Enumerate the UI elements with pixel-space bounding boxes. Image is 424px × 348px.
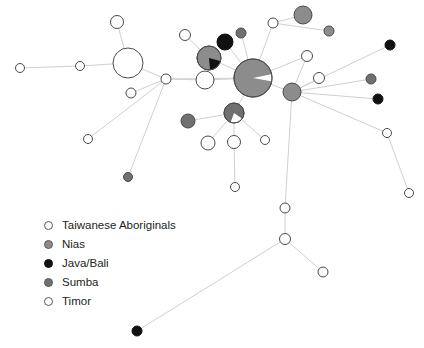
network-edge: [131, 79, 166, 93]
network-node[interactable]: [132, 326, 142, 336]
legend-item-label: Timor: [62, 292, 91, 311]
network-node[interactable]: [383, 129, 392, 138]
network-edge: [285, 92, 292, 208]
node-circle: [280, 234, 291, 245]
network-node[interactable]: [113, 48, 143, 78]
node-circle: [84, 135, 93, 144]
network-node[interactable]: [161, 74, 171, 84]
network-node[interactable]: [224, 103, 244, 123]
node-circle: [261, 136, 270, 145]
network-node[interactable]: [318, 267, 328, 277]
network-edge: [387, 133, 409, 193]
node-circle: [217, 34, 233, 50]
node-circle: [228, 136, 241, 149]
node-circle: [201, 136, 215, 150]
node-circle: [283, 83, 301, 101]
network-node[interactable]: [373, 94, 383, 104]
node-circle: [268, 18, 278, 28]
node-circle: [314, 73, 325, 84]
legend-item-taiwanese-aboriginals: Taiwanese Aboriginals: [44, 216, 244, 235]
network-node[interactable]: [236, 28, 246, 38]
node-circle: [111, 16, 124, 29]
node-circle: [126, 88, 136, 98]
node-circle: [132, 326, 142, 336]
legend-swatch-icon: [44, 240, 53, 249]
network-node[interactable]: [366, 74, 376, 84]
node-circle: [383, 129, 392, 138]
node-circle: [294, 6, 312, 24]
node-circle: [196, 71, 214, 89]
node-circle: [113, 48, 143, 78]
haplotype-network-figure: Taiwanese Aboriginals Nias Java/Bali Sum…: [0, 0, 424, 348]
node-circle: [236, 28, 246, 38]
legend-swatch-icon: [44, 221, 53, 230]
node-circle: [324, 26, 334, 36]
node-circle: [231, 183, 240, 192]
network-node[interactable]: [280, 234, 291, 245]
network-node[interactable]: [268, 18, 278, 28]
node-circle: [280, 203, 290, 213]
node-circle: [181, 114, 195, 128]
legend-swatch-icon: [44, 297, 53, 306]
network-node[interactable]: [196, 71, 214, 89]
legend-swatch-icon: [44, 278, 53, 287]
node-circle: [405, 189, 414, 198]
network-node[interactable]: [261, 136, 270, 145]
network-node[interactable]: [76, 62, 85, 71]
legend-item-label: Sumba: [62, 273, 98, 292]
legend-swatch-icon: [44, 259, 53, 268]
network-node[interactable]: [16, 64, 25, 73]
legend-item-timor: Timor: [44, 292, 244, 311]
node-circle: [180, 30, 191, 41]
legend-item-java-bali: Java/Bali: [44, 254, 244, 273]
node-circle: [302, 51, 313, 62]
network-node[interactable]: [405, 189, 414, 198]
network-edge: [285, 239, 323, 272]
network-node[interactable]: [111, 16, 124, 29]
network-edge: [20, 66, 80, 68]
network-node[interactable]: [302, 51, 313, 62]
network-node[interactable]: [197, 46, 221, 70]
legend-item-label: Taiwanese Aboriginals: [62, 216, 176, 235]
node-circle: [161, 74, 171, 84]
network-node[interactable]: [231, 183, 240, 192]
legend-item-sumba: Sumba: [44, 273, 244, 292]
legend-item-nias: Nias: [44, 235, 244, 254]
network-node[interactable]: [180, 30, 191, 41]
network-node[interactable]: [124, 173, 133, 182]
node-circle: [16, 64, 25, 73]
node-circle: [76, 62, 85, 71]
node-circle: [124, 173, 133, 182]
network-node[interactable]: [294, 6, 312, 24]
network-node[interactable]: [280, 203, 290, 213]
network-node[interactable]: [217, 34, 233, 50]
network-node[interactable]: [228, 136, 241, 149]
network-node[interactable]: [201, 136, 215, 150]
legend: Taiwanese Aboriginals Nias Java/Bali Sum…: [44, 216, 244, 311]
network-node[interactable]: [181, 114, 195, 128]
network-node[interactable]: [385, 40, 395, 50]
legend-item-label: Nias: [62, 235, 85, 254]
node-circle: [373, 94, 383, 104]
network-node[interactable]: [283, 83, 301, 101]
legend-item-label: Java/Bali: [62, 254, 109, 273]
node-circle: [385, 40, 395, 50]
network-node[interactable]: [126, 88, 136, 98]
network-node[interactable]: [324, 26, 334, 36]
network-node[interactable]: [314, 73, 325, 84]
node-circle: [366, 74, 376, 84]
network-node[interactable]: [84, 135, 93, 144]
node-circle: [318, 267, 328, 277]
network-node[interactable]: [234, 59, 272, 97]
